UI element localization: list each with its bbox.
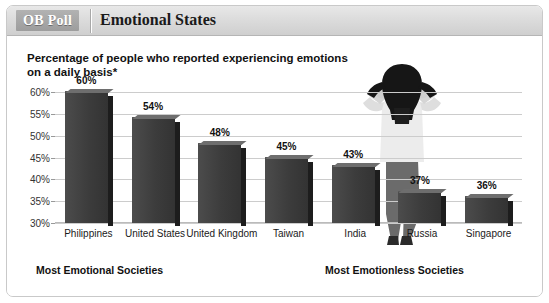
y-axis-tick-label: 40%: [30, 174, 50, 185]
category-label: United Kingdom: [184, 228, 260, 240]
y-axis-tick-label: 50%: [30, 130, 50, 141]
y-axis-tick-label: 60%: [30, 87, 50, 98]
bar-front-face: [132, 117, 175, 223]
category-label: United States: [117, 228, 193, 240]
chart-plot-area: 30%35%40%45%50%55%60%60%54%48%45%43%37%3…: [55, 92, 522, 223]
bar-value-label: 60%: [76, 75, 96, 86]
bar-side-face: [108, 96, 113, 226]
page-title: Emotional States: [100, 11, 216, 29]
y-axis-tick-label: 35%: [30, 196, 50, 207]
category-label: Taiwan: [251, 228, 327, 240]
bar-value-label: 48%: [210, 127, 230, 138]
category-label: Russia: [384, 228, 460, 240]
bar-side-face: [508, 201, 513, 226]
y-axis-tick-mark: [51, 114, 55, 115]
category-label: Singapore: [451, 228, 527, 240]
bar-value-label: 36%: [477, 180, 497, 191]
bar-value-label: 43%: [343, 149, 363, 160]
y-axis-tick-mark: [51, 158, 55, 159]
bar-front-face: [465, 196, 508, 223]
bar-side-face: [308, 162, 313, 227]
chart-bar: 48%: [198, 144, 241, 223]
bar-top-face: [199, 141, 247, 145]
poll-card: OB Poll Emotional States Percentage of p…: [6, 5, 543, 297]
bar-front-face: [332, 165, 375, 223]
category-label: India: [317, 228, 393, 240]
gridline: [55, 223, 522, 224]
chart-bar: 60%: [65, 92, 108, 223]
card-body: Percentage of people who reported experi…: [7, 36, 542, 296]
bar-top-face: [399, 189, 447, 193]
category-axis-labels: PhilippinesUnited StatesUnited KingdomTa…: [55, 228, 522, 258]
gridline: [55, 114, 522, 115]
bar-top-face: [466, 194, 514, 198]
gridline: [55, 136, 522, 137]
bar-side-face: [175, 122, 180, 226]
bar-front-face: [265, 157, 308, 224]
card-header: OB Poll Emotional States: [7, 6, 542, 36]
bar-side-face: [375, 170, 380, 226]
bar-front-face: [198, 143, 241, 223]
y-axis-tick-mark: [51, 179, 55, 180]
y-axis-tick-label: 55%: [30, 108, 50, 119]
chart-bar: 37%: [398, 192, 441, 223]
chart-bar: 43%: [332, 166, 375, 223]
chart-bar: 54%: [132, 118, 175, 223]
bar-top-face: [265, 155, 313, 159]
footnote-most-emotional: Most Emotional Societies: [36, 264, 163, 276]
y-axis-tick-mark: [51, 92, 55, 93]
ob-poll-badge: OB Poll: [16, 10, 79, 31]
bar-top-face: [332, 163, 380, 167]
bar-top-face: [65, 89, 113, 93]
y-axis-tick-label: 30%: [30, 218, 50, 229]
chart-bar: 36%: [465, 197, 508, 223]
screenshot-root: OB Poll Emotional States Percentage of p…: [0, 0, 549, 303]
bar-value-label: 54%: [143, 101, 163, 112]
bar-top-face: [132, 115, 180, 119]
header-divider: [90, 9, 92, 33]
bar-side-face: [241, 148, 246, 226]
footnote-most-emotionless: Most Emotionless Societies: [325, 264, 464, 276]
chart-bar: 45%: [265, 158, 308, 224]
bar-front-face: [65, 91, 108, 223]
y-axis-tick-mark: [51, 136, 55, 137]
category-label: Philippines: [50, 228, 126, 240]
bar-value-label: 37%: [410, 175, 430, 186]
bar-side-face: [441, 196, 446, 226]
bar-front-face: [398, 191, 441, 223]
y-axis-tick-mark: [51, 223, 55, 224]
gridline: [55, 92, 522, 93]
y-axis-tick-label: 45%: [30, 152, 50, 163]
bar-value-label: 45%: [276, 141, 296, 152]
y-axis-tick-mark: [51, 201, 55, 202]
